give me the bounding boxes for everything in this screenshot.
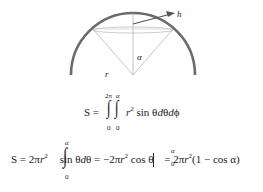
- label-r: r: [105, 69, 109, 79]
- hemisphere-cone-diagram: h α r: [0, 0, 263, 80]
- eq1-outer-upper: 2π: [105, 92, 112, 100]
- label-h: h: [177, 9, 182, 19]
- eq1-integrand: r2 sin θdθdϕ: [126, 106, 179, 118]
- eq2-main: S = 2πr2sin θdθ = −2πr2 cos θ = 2πr2(1 −…: [11, 153, 240, 167]
- eq1-inner-lower: 0: [116, 124, 120, 132]
- eq2-eval-lower: 0: [171, 160, 175, 168]
- eq2-int-lower: 0: [65, 173, 69, 181]
- eq2-eval-upper: α: [171, 147, 175, 155]
- eq1-lhs: S =: [84, 106, 99, 118]
- eq1-inner-upper: α: [116, 92, 120, 100]
- arrowhead-icon: [166, 11, 175, 17]
- cone-left-side: [93, 29, 133, 75]
- eq1-outer-lower: 0: [107, 124, 111, 132]
- label-alpha: α: [137, 52, 142, 62]
- eq2-int-upper: α: [65, 139, 69, 147]
